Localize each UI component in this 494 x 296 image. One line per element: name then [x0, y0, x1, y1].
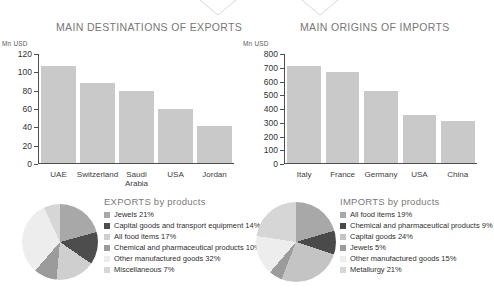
legend-label: Capital goods 24% [350, 232, 413, 242]
bar-slot: Jordan [197, 54, 231, 163]
y-tick-mark [34, 109, 38, 110]
bar-slot: USA [403, 54, 437, 163]
y-tick-mark [280, 109, 284, 110]
legend-swatch [340, 267, 346, 273]
y-tick-label: 60 [23, 104, 32, 114]
y-tick-label: 0 [27, 159, 32, 169]
y-tick-mark [280, 164, 284, 165]
bar-category-label: UAE [36, 170, 80, 179]
y-tick-mark [34, 54, 38, 55]
legend-swatch [340, 256, 346, 262]
y-tick-label: 800 [264, 49, 278, 59]
bar-slot: China [441, 54, 475, 163]
y-tick-label: 300 [264, 118, 278, 128]
imports-bar-chart: Mn USD 8007006005004003002001000 ItalyFr… [241, 40, 494, 190]
exports-section-title: MAIN DESTINATIONS OF EXPORTS [56, 21, 242, 33]
imports-bars: ItalyFranceGermanyUSAChina [285, 54, 477, 163]
bar-category-label: Jordan [192, 170, 236, 179]
legend-label: Other manufactured goods 15% [350, 254, 456, 264]
legend-item: Chemical and pharmaceutical products 9% [340, 221, 493, 231]
bar-category-label: Switzerland [75, 170, 119, 179]
imports-axis-unit-label: Mn USD [243, 40, 269, 47]
y-tick-label: 100 [264, 145, 278, 155]
exports-pie-chart [22, 204, 98, 280]
legend-swatch [104, 245, 110, 251]
legend-label: Miscellaneous 7% [114, 265, 174, 275]
legend-label: Other manufactured goods 32% [114, 254, 220, 264]
legend-label: Capital goods and transport equipment 14… [114, 221, 260, 231]
y-tick-label: 400 [264, 104, 278, 114]
triangle-marker-exports [188, 0, 248, 16]
y-tick-label: 100 [18, 67, 32, 77]
legend-item: Miscellaneous 7% [104, 265, 261, 275]
y-tick-label: 80 [23, 86, 32, 96]
y-tick-label: 500 [264, 90, 278, 100]
bar [41, 66, 75, 163]
imports-section-title: MAIN ORIGINS OF IMPORTS [300, 21, 450, 33]
bar-slot: UAE [41, 54, 75, 163]
bar [158, 109, 192, 164]
legend-item: All food items 17% [104, 232, 261, 242]
legend-item: Metallurgy 21% [340, 265, 493, 275]
bar [364, 91, 398, 163]
legend-label: Jewels 21% [114, 210, 154, 220]
legend-label: Chemical and pharmaceutical products 10% [114, 243, 261, 253]
bar-slot: Saudi Arabia [119, 54, 153, 163]
triangle-marker-imports [290, 0, 350, 16]
imports-legend: IMPORTS by products All food items 19%Ch… [340, 196, 493, 276]
y-tick-label: 0 [273, 159, 278, 169]
imports-pie-chart [256, 202, 336, 282]
legend-swatch [340, 234, 346, 240]
legend-item: All food items 19% [340, 210, 493, 220]
legend-swatch [340, 223, 346, 229]
y-tick-mark [280, 123, 284, 124]
exports-bar-chart: Mn USD 120100806040200 UAESwitzerlandSau… [0, 40, 247, 190]
legend-swatch [340, 245, 346, 251]
y-tick-mark [34, 146, 38, 147]
bar-category-label: Italy [282, 170, 326, 179]
bar [80, 83, 114, 163]
legend-label: Jewels 5% [350, 243, 386, 253]
bar-category-label: Saudi Arabia [114, 170, 158, 188]
bar [197, 126, 231, 163]
bar-slot: Germany [364, 54, 398, 163]
bar [326, 72, 360, 163]
y-tick-mark [34, 72, 38, 73]
y-tick-label: 700 [264, 63, 278, 73]
y-tick-mark [280, 137, 284, 138]
legend-item: Other manufactured goods 15% [340, 254, 493, 264]
imports-x-axis [284, 163, 477, 164]
bar-slot: Switzerland [80, 54, 114, 163]
exports-legend-items: Jewels 21%Capital goods and transport eq… [104, 210, 261, 275]
bar-category-label: USA [153, 170, 197, 179]
legend-item: Capital goods and transport equipment 14… [104, 221, 261, 231]
legend-swatch [104, 267, 110, 273]
bar-slot: USA [158, 54, 192, 163]
legend-label: Chemical and pharmaceutical products 9% [350, 221, 493, 231]
legend-item: Jewels 5% [340, 243, 493, 253]
exports-bars: UAESwitzerlandSaudi ArabiaUSAJordan [39, 54, 234, 163]
bar [441, 121, 475, 163]
bar-slot: Italy [287, 54, 321, 163]
y-tick-mark [280, 95, 284, 96]
bar [119, 91, 153, 163]
y-tick-mark [34, 164, 38, 165]
bar [287, 66, 321, 163]
y-tick-mark [280, 150, 284, 151]
imports-legend-title: IMPORTS by products [340, 196, 493, 207]
y-tick-mark [34, 127, 38, 128]
y-tick-mark [280, 54, 284, 55]
legend-item: Jewels 21% [104, 210, 261, 220]
legend-label: Metallurgy 21% [350, 265, 402, 275]
y-tick-mark [280, 82, 284, 83]
legend-label: All food items 17% [114, 232, 176, 242]
legend-swatch [104, 256, 110, 262]
y-tick-label: 20 [23, 141, 32, 151]
imports-legend-items: All food items 19%Chemical and pharmaceu… [340, 210, 493, 275]
y-tick-label: 200 [264, 132, 278, 142]
bar-slot: France [326, 54, 360, 163]
y-tick-label: 600 [264, 77, 278, 87]
legend-swatch [104, 234, 110, 240]
bar-category-label: France [321, 170, 365, 179]
legend-swatch [104, 223, 110, 229]
